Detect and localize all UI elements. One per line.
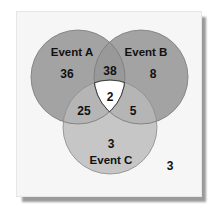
venn-diagram: Event A Event B Event C 36 8 38 2 25 5 3… (0, 0, 214, 219)
value-a-and-b: 38 (103, 64, 117, 78)
value-outside: 3 (167, 159, 174, 173)
label-event-b: Event B (125, 46, 168, 58)
value-a-b-c: 2 (107, 90, 114, 104)
value-b-only: 8 (150, 67, 157, 81)
value-a-only: 36 (60, 67, 74, 81)
value-b-and-c: 5 (130, 104, 137, 118)
label-event-a: Event A (51, 46, 93, 58)
label-event-c: Event C (90, 154, 133, 166)
value-c-only: 3 (108, 137, 115, 151)
value-a-and-c: 25 (77, 104, 91, 118)
